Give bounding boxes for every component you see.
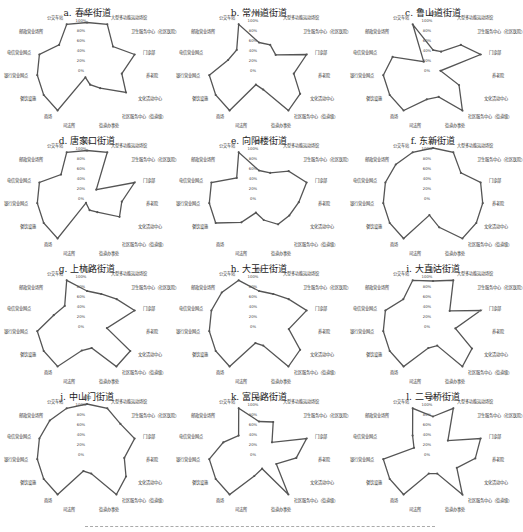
axis-label: 商场 (390, 241, 398, 248)
axis-label: 文化活动中心 (310, 95, 335, 102)
data-point-marker (115, 365, 117, 367)
radial-tick-label: 60% (423, 166, 432, 171)
axis-label: 街道办事处 (271, 378, 292, 385)
axis-label: 电信营业网点 (7, 177, 31, 184)
data-point-marker (384, 309, 386, 311)
data-point-marker (412, 407, 414, 409)
radial-tick-label: 40% (423, 432, 432, 437)
axis-label: 文化活动中心 (484, 95, 509, 102)
data-point-marker (121, 73, 123, 75)
axis-label: 电信营业网点 (179, 177, 203, 184)
data-point-marker (99, 87, 101, 89)
axis-label: 电信营业网点 (7, 305, 31, 312)
axis-label: 银行营业网点 (350, 456, 374, 463)
data-point-marker (288, 298, 290, 300)
data-point-marker (134, 437, 136, 439)
data-point-marker (474, 457, 476, 459)
data-point-marker (402, 298, 404, 300)
radar-plot: 0%20%40%60%80%100%初中大型多功能运动场馆卫生服务中心（社区医院… (346, 386, 520, 514)
data-point-marker (432, 49, 434, 51)
axis-label: 文化活动中心 (484, 351, 509, 358)
radial-tick-label: 40% (77, 432, 86, 437)
radial-tick-label: 40% (77, 48, 86, 53)
axis-label: 银行营业网点 (4, 456, 28, 463)
data-point-marker (106, 23, 108, 25)
data-point-marker (53, 314, 55, 316)
axis-label: 银行营业网点 (176, 72, 200, 79)
data-point-marker (403, 109, 405, 111)
axis-label: 门诊部 (315, 177, 327, 184)
radar-panel: e. 向阳楼街道0%20%40%60%80%100%初中大型多功能运动场馆卫生服… (172, 130, 346, 258)
data-point-marker (412, 279, 414, 281)
data-point-marker (438, 226, 440, 228)
radial-tick-label: 20% (423, 314, 432, 319)
axis-label: 卫生服务中心（社区医院） (303, 28, 351, 35)
axis-label: 司法所 (63, 250, 75, 257)
data-point-marker (392, 56, 394, 58)
radial-tick-label: 100% (422, 402, 433, 407)
axis-label: 餐饮设施 (20, 351, 37, 358)
data-point-marker (215, 478, 217, 480)
data-point-marker (288, 170, 290, 172)
radial-tick-label: 60% (77, 166, 86, 171)
axis-label: 司法所 (63, 122, 75, 129)
data-point-marker (382, 202, 384, 204)
data-point-marker (480, 53, 482, 55)
radar-plot: 0%20%40%60%80%100%初中大型多功能运动场馆卫生服务中心（社区医院… (0, 258, 174, 386)
data-point-marker (299, 349, 301, 351)
data-point-marker (208, 74, 210, 76)
axis-label: 卫生服务中心（社区医院） (477, 28, 523, 35)
axis-label: 大型多功能运动场馆 (283, 398, 319, 405)
axis-label: 卫生服务中心（社区医院） (303, 412, 351, 419)
axis-label: 社区服务中心（街道级） (122, 241, 166, 248)
axis-label: 初中 (429, 266, 437, 273)
data-point-marker (238, 279, 240, 281)
data-point-marker (454, 327, 456, 329)
axis-label: 邮政营业场所 (191, 28, 215, 35)
axis-label: 门诊部 (489, 305, 501, 312)
axis-label: 邮政营业场所 (191, 284, 215, 291)
radial-tick-label: 20% (77, 58, 86, 63)
data-point-marker (66, 279, 68, 281)
axis-label: 邮政营业场所 (19, 156, 43, 163)
data-point-marker (403, 493, 405, 495)
data-point-marker (210, 309, 212, 311)
data-point-marker (428, 473, 430, 475)
axis-label: 邮政营业场所 (19, 284, 43, 291)
data-point-marker (57, 109, 59, 111)
axis-label: 门诊部 (489, 177, 501, 184)
data-series-line (383, 148, 482, 239)
axis-label: 社区服务中心（街道级） (468, 497, 512, 504)
data-point-marker (475, 222, 477, 224)
data-point-marker (403, 237, 405, 239)
axis-label: 公交车站 (47, 398, 63, 405)
data-point-marker (208, 458, 210, 460)
data-point-marker (269, 44, 271, 46)
data-point-marker (208, 202, 210, 204)
data-point-marker (452, 279, 454, 281)
data-point-marker (382, 458, 384, 460)
data-point-marker (229, 365, 231, 367)
data-point-marker (306, 309, 308, 311)
axis-label: 大型多功能运动场馆 (283, 270, 319, 277)
axis-label: 文化活动中心 (484, 479, 509, 486)
axis-label: 街道办事处 (99, 250, 120, 257)
radial-tick-label: 20% (249, 186, 258, 191)
axis-label: 街道办事处 (99, 378, 120, 385)
axis-label: 电信营业网点 (353, 177, 377, 184)
data-point-marker (412, 23, 414, 25)
axis-label: 初中 (83, 394, 91, 401)
data-point-marker (118, 216, 120, 218)
data-point-marker (229, 493, 231, 495)
radial-tick-label: 40% (249, 48, 258, 53)
data-point-marker (43, 222, 45, 224)
data-point-marker (382, 330, 384, 332)
radial-tick-label: 40% (249, 176, 258, 181)
radial-tick-label: 40% (249, 304, 258, 309)
axis-label: 大型多功能运动场馆 (111, 398, 147, 405)
axis-label: 街道办事处 (445, 250, 466, 257)
data-point-marker (389, 94, 391, 96)
axis-label: 公交车站 (393, 398, 409, 405)
axis-label: 卫生服务中心（社区医院） (477, 284, 523, 291)
data-point-marker (461, 365, 463, 367)
